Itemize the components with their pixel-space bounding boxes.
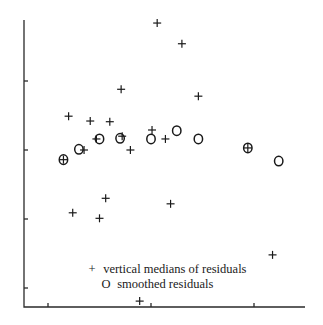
plus-marker-icon (153, 19, 161, 27)
legend-item-smoothed: O smoothed residuals (84, 277, 246, 292)
plus-marker-icon (269, 251, 277, 259)
legend: + vertical medians of residuals O smooth… (84, 262, 246, 292)
plus-marker-icon (86, 117, 94, 125)
plus-marker-icon (117, 85, 125, 93)
circle-marker-icon (75, 145, 83, 155)
circle-marker-icon (275, 156, 283, 166)
circle-marker-icon (194, 134, 202, 144)
circle-marker-icon (173, 126, 181, 136)
plus-marker-icon (136, 297, 144, 305)
plus-marker-icon (106, 118, 114, 126)
series-smoothed-residuals (59, 126, 283, 166)
plus-marker-icon (178, 40, 186, 48)
legend-item-medians: + vertical medians of residuals (84, 262, 246, 277)
plus-marker-icon (161, 135, 169, 143)
plus-marker-icon (65, 112, 73, 120)
plus-marker-icon (102, 194, 110, 202)
plus-marker-icon (167, 200, 175, 208)
plus-marker-icon (126, 146, 134, 154)
legend-label-medians: vertical medians of residuals (103, 262, 246, 276)
circle-marker-icon (116, 133, 124, 143)
legend-label-smoothed: smoothed residuals (117, 277, 213, 291)
plus-marker-icon (69, 209, 77, 217)
circle-marker-icon: O (98, 277, 114, 292)
plus-marker-icon (148, 126, 156, 134)
plus-marker-icon (96, 214, 104, 222)
plus-marker-icon: + (84, 262, 100, 277)
plus-marker-icon (194, 92, 202, 100)
circle-marker-icon (147, 134, 155, 144)
